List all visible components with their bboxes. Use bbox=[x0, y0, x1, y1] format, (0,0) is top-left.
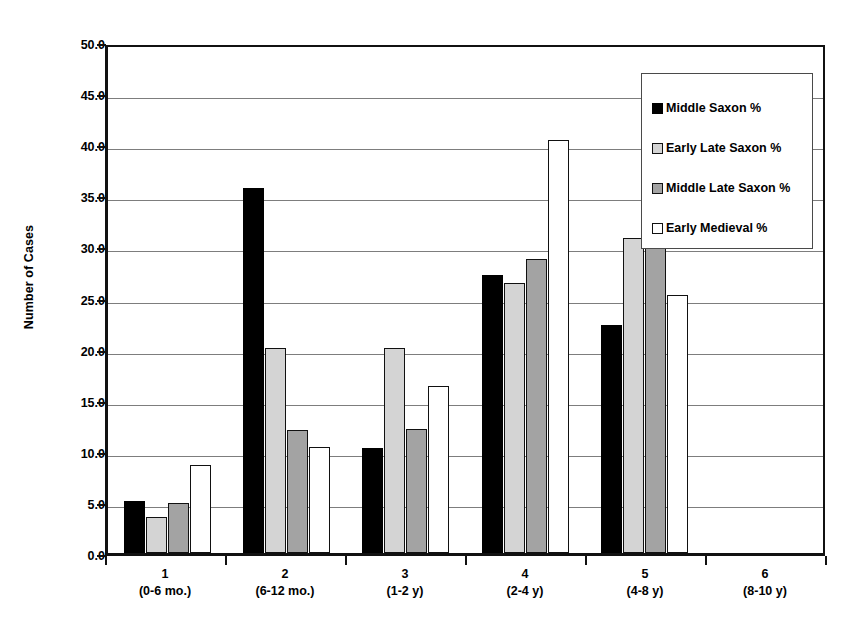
legend-item[interactable]: Early Medieval % bbox=[652, 208, 812, 248]
legend-item[interactable]: Early Late Saxon % bbox=[652, 128, 812, 168]
x-axis-label-range: (2-4 y) bbox=[465, 583, 585, 600]
x-tick-mark bbox=[345, 556, 347, 565]
x-axis-label: 5(4-8 y) bbox=[585, 566, 705, 600]
bar[interactable] bbox=[482, 275, 503, 553]
x-axis-labels: 1(0-6 mo.)2(6-12 mo.)3(1-2 y)4(2-4 y)5(4… bbox=[105, 566, 825, 600]
x-axis-label-range: (1-2 y) bbox=[345, 583, 465, 600]
bar[interactable] bbox=[124, 501, 145, 553]
x-tick-mark bbox=[585, 556, 587, 565]
x-axis-label-number: 1 bbox=[105, 566, 225, 583]
legend-label: Middle Late Saxon % bbox=[666, 181, 790, 195]
x-tick-mark bbox=[465, 556, 467, 565]
x-axis-label-range: (0-6 mo.) bbox=[105, 583, 225, 600]
legend-label: Early Medieval % bbox=[666, 221, 767, 235]
legend-swatch-icon bbox=[652, 143, 663, 154]
x-axis-label-range: (8-10 y) bbox=[705, 583, 825, 600]
legend-swatch-icon bbox=[652, 223, 663, 234]
bar[interactable] bbox=[384, 348, 405, 553]
x-axis-label-number: 3 bbox=[345, 566, 465, 583]
x-tick-mark bbox=[705, 556, 707, 565]
bar[interactable] bbox=[601, 325, 622, 553]
bar[interactable] bbox=[146, 517, 167, 553]
x-axis-label-range: (6-12 mo.) bbox=[225, 583, 345, 600]
bar[interactable] bbox=[406, 429, 427, 553]
legend-swatch-icon bbox=[652, 183, 663, 194]
bar[interactable] bbox=[190, 465, 211, 553]
bar[interactable] bbox=[526, 259, 547, 553]
x-axis-label-number: 2 bbox=[225, 566, 345, 583]
x-axis-ticks bbox=[105, 556, 825, 566]
bar-group bbox=[227, 47, 346, 553]
bar[interactable] bbox=[287, 430, 308, 553]
bar[interactable] bbox=[265, 348, 286, 553]
bar[interactable] bbox=[243, 188, 264, 553]
x-axis-label: 6(8-10 y) bbox=[705, 566, 825, 600]
bar-chart-figure: Number of Cases 50.045.040.035.030.025.0… bbox=[0, 0, 867, 630]
legend-label: Early Late Saxon % bbox=[666, 141, 781, 155]
x-axis-label-number: 5 bbox=[585, 566, 705, 583]
legend-item[interactable]: Middle Late Saxon % bbox=[652, 168, 812, 208]
bar[interactable] bbox=[623, 238, 644, 553]
x-tick-mark bbox=[225, 556, 227, 565]
x-axis-label: 4(2-4 y) bbox=[465, 566, 585, 600]
legend-item[interactable]: Middle Saxon % bbox=[652, 88, 812, 128]
x-tick-mark bbox=[105, 556, 107, 565]
bar-group bbox=[466, 47, 585, 553]
x-axis-label: 2(6-12 mo.) bbox=[225, 566, 345, 600]
bar[interactable] bbox=[362, 448, 383, 553]
legend-label: Middle Saxon % bbox=[666, 101, 761, 115]
x-axis-label-number: 4 bbox=[465, 566, 585, 583]
bar[interactable] bbox=[168, 503, 189, 553]
x-axis-label-range: (4-8 y) bbox=[585, 583, 705, 600]
bar-group bbox=[108, 47, 227, 553]
bar[interactable] bbox=[309, 447, 330, 553]
legend-swatch-icon bbox=[652, 103, 663, 114]
bar[interactable] bbox=[504, 283, 525, 553]
x-axis-label: 1(0-6 mo.) bbox=[105, 566, 225, 600]
y-axis-ticks: 50.045.040.035.030.025.020.015.010.05.00… bbox=[0, 0, 105, 630]
x-axis-label: 3(1-2 y) bbox=[345, 566, 465, 600]
bar-group bbox=[346, 47, 465, 553]
x-axis-label-number: 6 bbox=[705, 566, 825, 583]
bar[interactable] bbox=[428, 386, 449, 553]
bar[interactable] bbox=[667, 295, 688, 553]
chart-legend: Middle Saxon %Early Late Saxon %Middle L… bbox=[641, 73, 813, 249]
bar[interactable] bbox=[548, 140, 569, 553]
x-tick-mark bbox=[825, 556, 827, 565]
